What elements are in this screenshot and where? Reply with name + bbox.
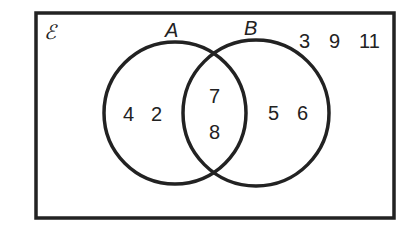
universal-set-label: ℰ xyxy=(44,22,56,42)
region-b-only-value: 5 xyxy=(268,103,279,123)
region-outside-value: 11 xyxy=(359,31,380,51)
region-intersection-value: 8 xyxy=(209,122,220,142)
region-a-only-value: 2 xyxy=(151,104,162,124)
universal-set-rectangle xyxy=(36,13,394,218)
set-a-label: A xyxy=(165,20,178,40)
region-outside-value: 3 xyxy=(299,31,310,51)
set-b-label: B xyxy=(244,18,257,38)
region-outside-value: 9 xyxy=(329,31,340,51)
region-intersection-value: 7 xyxy=(209,86,220,106)
region-a-only-value: 4 xyxy=(123,104,134,124)
region-b-only-value: 6 xyxy=(297,103,308,123)
venn-diagram xyxy=(0,0,413,230)
